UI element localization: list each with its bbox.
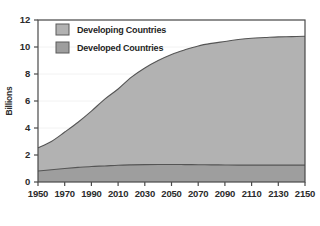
x-tick-label: 2150 [295, 188, 315, 199]
y-tick-label: 12 [20, 14, 30, 25]
y-tick-label: 4 [25, 122, 31, 133]
x-tick-label: 1970 [55, 188, 75, 199]
population-projection-chart: 024681012 195019701990201020302050207020… [0, 0, 320, 226]
y-tick-label: 8 [25, 68, 30, 79]
x-tick-label: 2070 [188, 188, 208, 199]
x-tick-label: 2030 [135, 188, 155, 199]
x-tick-label: 2050 [161, 188, 181, 199]
y-tick-label: 6 [25, 95, 30, 106]
y-axis: 024681012 [20, 14, 38, 187]
legend-swatch-developed [56, 42, 69, 53]
y-tick-label: 2 [25, 149, 30, 160]
chart-canvas: 024681012 195019701990201020302050207020… [0, 0, 320, 226]
x-tick-label: 1990 [81, 188, 101, 199]
y-axis-title: Billions [4, 86, 14, 116]
x-tick-label: 2090 [215, 188, 235, 199]
legend-label-developing: Developing Countries [77, 25, 166, 35]
y-tick-label: 0 [25, 176, 30, 187]
x-tick-label: 2110 [242, 188, 262, 199]
y-tick-label: 10 [20, 41, 30, 52]
legend-label-developed: Developed Countries [77, 43, 163, 53]
x-axis: 1950197019902010203020502070209021102130… [28, 182, 315, 199]
legend-swatch-developing [56, 24, 69, 35]
x-tick-label: 2010 [108, 188, 128, 199]
x-tick-label: 1950 [28, 188, 48, 199]
x-tick-label: 2130 [268, 188, 288, 199]
